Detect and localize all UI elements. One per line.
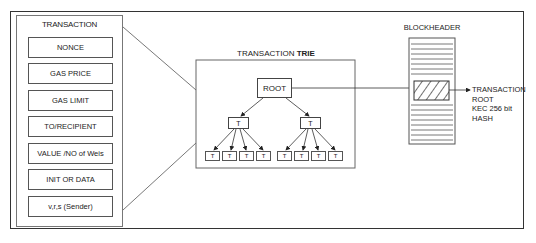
hash-label-line: HASH [472, 114, 526, 124]
trie-leaf-node: T [328, 151, 343, 161]
trie-leaf-node: T [205, 151, 220, 161]
trie-leaf-node: T [311, 151, 326, 161]
trie-title: TRANSACTION TRIE [196, 49, 356, 58]
hash-label-line: KEC 256 bit [472, 104, 526, 114]
trie-leaf-node: T [277, 151, 292, 161]
connector-lines [0, 0, 536, 243]
trie-leaf-node: T [294, 151, 309, 161]
hash-label-line: TRANSACTION [472, 85, 526, 95]
hash-label-line: ROOT [472, 95, 526, 105]
trie-branch-node-right: T [300, 117, 321, 129]
trie-root-node: ROOT [257, 78, 292, 98]
blockheader-title: BLOCKHEADER [395, 23, 469, 32]
trie-leaf-node: T [256, 151, 271, 161]
transaction-root-hash-label: TRANSACTION ROOT KEC 256 bit HASH [472, 85, 526, 123]
trie-leaf-node: T [222, 151, 237, 161]
trie-branch-node-left: T [228, 117, 249, 129]
trie-leaf-node: T [239, 151, 254, 161]
